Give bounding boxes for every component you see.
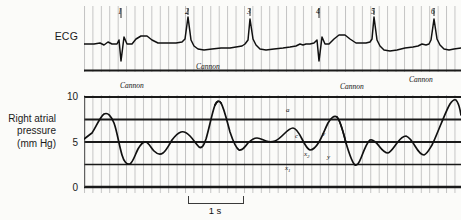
wave-label-v: v <box>322 130 325 138</box>
wave-label-c: c <box>295 132 298 140</box>
ecg-axis-label: ECG <box>0 30 78 42</box>
figure-root: ECG 1 2 3 4 5 <box>0 0 461 220</box>
wave-label-x2: x2 <box>304 150 310 159</box>
ra-pressure-axis-label: Right atrial pressure (mm Hg) <box>0 113 56 150</box>
ytick-5: 5 <box>56 137 78 148</box>
ra-pressure-panel <box>84 95 461 193</box>
ecg-beat-marker-6: 6 <box>431 7 435 16</box>
cannon-annotation-ra-1: Cannon <box>120 81 144 90</box>
ecg-plot <box>84 6 461 72</box>
wave-label-x1: x1 <box>285 164 291 173</box>
ecg-beat-marker-2: 2 <box>185 7 189 16</box>
wave-label-a: a <box>286 106 290 114</box>
cannon-annotation-ecg-1: Cannon <box>196 62 220 71</box>
ra-label-line-1: Right atrial <box>0 113 56 125</box>
ecg-beat-marker-3: 3 <box>247 7 251 16</box>
ra-label-line-2: pressure <box>0 125 56 137</box>
time-scale-label: 1 s <box>188 205 242 216</box>
wave-label-y: y <box>327 153 330 161</box>
ecg-beat-marker-4: 4 <box>316 7 320 16</box>
ytick-10: 10 <box>56 91 78 102</box>
ecg-panel <box>84 6 461 72</box>
ecg-gridlines <box>84 6 461 72</box>
ra-label-line-3: (mm Hg) <box>0 138 56 150</box>
ecg-beat-marker-1: 1 <box>118 7 122 16</box>
ecg-beat-marker-5: 5 <box>371 7 375 16</box>
time-scale-bar <box>188 196 244 204</box>
cannon-annotation-ra-2: Cannon <box>340 82 364 91</box>
ytick-0: 0 <box>56 182 78 193</box>
ra-pressure-plot <box>84 95 461 193</box>
cannon-annotation-ra-3: Cannon <box>409 75 433 84</box>
